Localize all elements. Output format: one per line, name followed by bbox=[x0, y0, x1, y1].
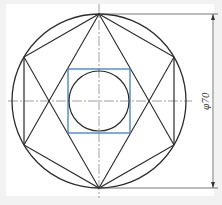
dimension-label: φ70 bbox=[201, 92, 211, 110]
technical-drawing: φ70 bbox=[0, 0, 222, 205]
drawing-canvas: φ70 bbox=[0, 0, 222, 205]
